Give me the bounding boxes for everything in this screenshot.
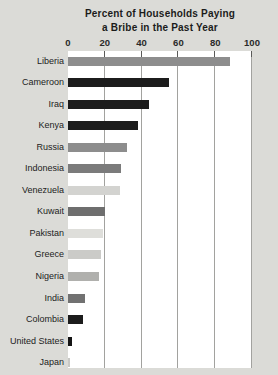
chart-title-line1: Percent of Households Paying	[62, 7, 258, 21]
category-label-iraq: Iraq	[0, 99, 64, 109]
bar-indonesia	[68, 164, 121, 173]
category-label-japan: Japan	[0, 357, 64, 367]
chart-title: Percent of Households Paying a Bribe in …	[62, 7, 258, 35]
bar-japan	[68, 358, 70, 367]
bar-nigeria	[68, 272, 99, 281]
bar-kenya	[68, 121, 138, 130]
tick-mark-100	[251, 51, 252, 57]
bar-kuwait	[68, 207, 105, 216]
category-label-india: India	[0, 293, 64, 303]
category-label-russia: Russia	[0, 142, 64, 152]
gridline-40	[141, 51, 142, 368]
category-label-greece: Greece	[0, 249, 64, 259]
category-label-liberia: Liberia	[0, 56, 64, 66]
gridline-100	[251, 51, 252, 368]
x-axis-tick-label-80: 80	[200, 37, 230, 48]
category-label-united-states: United States	[0, 336, 64, 346]
gridline-60	[177, 51, 178, 368]
category-label-kuwait: Kuwait	[0, 206, 64, 216]
bar-liberia	[68, 57, 230, 66]
category-label-pakistan: Pakistan	[0, 228, 64, 238]
bar-colombia	[68, 315, 83, 324]
x-axis-tick-label-20: 20	[90, 37, 120, 48]
x-axis-tick-label-0: 0	[53, 37, 83, 48]
category-label-nigeria: Nigeria	[0, 271, 64, 281]
x-axis-tick-label-60: 60	[163, 37, 193, 48]
bar-india	[68, 294, 85, 303]
plot-area	[68, 51, 252, 368]
bar-cameroon	[68, 78, 169, 87]
bar-venezuela	[68, 186, 120, 195]
bribery-bar-chart-figure: Percent of Households Paying a Bribe in …	[0, 0, 278, 375]
category-label-colombia: Colombia	[0, 314, 64, 324]
x-axis-tick-label-100: 100	[237, 37, 267, 48]
bar-united-states	[68, 337, 72, 346]
category-label-indonesia: Indonesia	[0, 163, 64, 173]
bar-greece	[68, 250, 101, 259]
gridline-80	[214, 51, 215, 368]
category-label-cameroon: Cameroon	[0, 77, 64, 87]
bar-russia	[68, 143, 127, 152]
category-label-venezuela: Venezuela	[0, 185, 64, 195]
category-label-kenya: Kenya	[0, 120, 64, 130]
bar-pakistan	[68, 229, 103, 238]
chart-title-line2: a Bribe in the Past Year	[62, 21, 258, 35]
x-axis-tick-label-40: 40	[127, 37, 157, 48]
bar-iraq	[68, 100, 149, 109]
